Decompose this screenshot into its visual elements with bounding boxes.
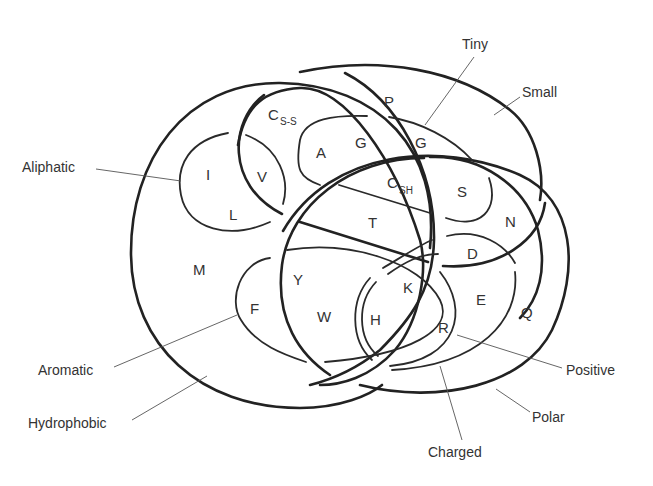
aa-lysine: K (403, 279, 413, 296)
svg-text:C: C (387, 174, 398, 191)
aa-proline: P (384, 93, 394, 110)
aa-glutamine: Q (521, 304, 533, 321)
charged-label: Charged (428, 444, 482, 460)
aa-phenylalanine: F (250, 300, 259, 317)
aa-glycine-tiny: G (415, 134, 427, 151)
t-divider-line (300, 222, 428, 262)
aa-glutamate: E (476, 291, 486, 308)
aa-arginine: R (438, 319, 449, 336)
amino-acid-venn-diagram: Aliphatic Aromatic Hydrophobic Tiny Smal… (0, 0, 653, 486)
hydrophobic-label: Hydrophobic (28, 415, 107, 431)
aa-leucine: L (229, 206, 237, 223)
aa-asparagine: N (505, 213, 516, 230)
histidine-arc (355, 240, 438, 360)
aa-glycine-hydrophobic: G (355, 134, 367, 151)
aa-aspartate: D (467, 245, 478, 262)
serine-arc (446, 178, 492, 222)
aliphatic-label: Aliphatic (22, 159, 75, 175)
svg-text:SH: SH (399, 185, 413, 196)
aromatic-label: Aromatic (38, 362, 93, 378)
small-label: Small (522, 84, 557, 100)
aa-valine: V (257, 168, 267, 185)
small-set (238, 65, 541, 385)
aa-isoleucine: I (206, 166, 210, 183)
aa-histidine: H (370, 311, 381, 328)
aa-tryptophan: W (317, 308, 332, 325)
aa-cystine: C S-S (268, 106, 297, 127)
svg-text:C: C (268, 106, 279, 123)
aspartate-arc (447, 234, 515, 263)
polar-label: Polar (532, 409, 565, 425)
aa-tyrosine: Y (293, 271, 303, 288)
tiny-label: Tiny (462, 36, 488, 52)
aromatic-set (236, 248, 443, 362)
aa-cysteine-sh: C SH (387, 174, 413, 196)
aa-threonine: T (368, 214, 377, 231)
aa-serine: S (457, 183, 467, 200)
aa-alanine: A (316, 144, 326, 161)
polar-inner-set (430, 157, 545, 318)
positive-label: Positive (566, 362, 615, 378)
csh-divider-line (339, 185, 430, 213)
aa-methionine: M (193, 261, 206, 278)
svg-text:S-S: S-S (280, 116, 297, 127)
